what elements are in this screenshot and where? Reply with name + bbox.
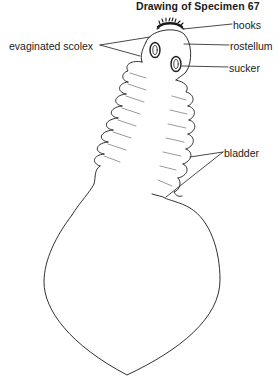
leader-lines <box>100 24 232 197</box>
leader-scolex-1 <box>100 37 150 45</box>
leader-bladder-2 <box>166 152 223 197</box>
hooks-icon <box>157 18 184 29</box>
leader-rostellum <box>184 44 229 45</box>
sucker-right <box>171 57 181 72</box>
leader-hooks <box>183 24 232 29</box>
bladder <box>44 194 220 375</box>
leader-scolex-2 <box>100 45 140 56</box>
neck-left-folds <box>72 61 142 215</box>
specimen-drawing <box>0 0 279 378</box>
fold-creases <box>104 73 187 186</box>
sucker-left <box>150 43 160 58</box>
